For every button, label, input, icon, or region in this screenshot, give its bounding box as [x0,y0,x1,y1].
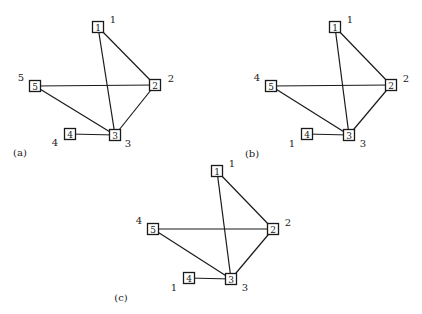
node-box-label: 4 [304,130,310,140]
edge-4-3 [189,278,231,279]
node-box-label: 2 [388,81,394,91]
node-outer-label: 1 [289,138,295,149]
edge-5-3 [35,86,115,135]
node-outer-label: 3 [125,138,131,149]
graph-diagram: 1122334455(a)1122334154(b)1122334154(c) [0,0,422,314]
node-outer-label: 4 [254,72,260,83]
panel-caption: (c) [114,292,128,303]
edge-4-3 [70,134,115,135]
node-outer-label: 4 [136,215,142,226]
edge-5-2 [35,85,155,86]
edge-2-3 [349,85,391,135]
node-box-label: 5 [32,82,38,92]
panel-caption: (a) [13,147,27,158]
node-outer-label: 2 [403,73,409,84]
node-box-label: 3 [346,131,352,141]
node-outer-label: 3 [360,138,366,149]
node-box-label: 5 [150,225,156,235]
node-box-label: 1 [95,23,101,33]
node-box-label: 1 [332,23,338,33]
edge-1-2 [217,171,273,229]
node-box-label: 1 [214,167,220,177]
graph-panel-a: 1122334455(a) [13,14,174,158]
node-outer-label: 1 [347,14,353,25]
edge-1-3 [98,27,115,135]
node-box-label: 2 [270,225,276,235]
edge-4-3 [307,134,349,135]
panel-caption: (b) [245,148,259,159]
edge-1-2 [335,27,391,85]
node-outer-label: 2 [168,73,174,84]
node-outer-label: 3 [242,282,248,293]
node-box-label: 3 [228,275,234,285]
node-box-label: 4 [67,130,73,140]
edge-1-3 [217,171,231,279]
edge-2-3 [115,85,155,135]
node-outer-label: 2 [285,217,291,228]
edge-5-3 [153,229,231,279]
edge-5-3 [271,86,349,135]
node-box-label: 2 [152,81,158,91]
edge-1-2 [98,27,155,85]
node-outer-label: 4 [52,137,58,148]
node-box-label: 5 [268,82,274,92]
edge-5-2 [271,85,391,86]
edge-1-3 [335,27,349,135]
node-outer-label: 1 [229,158,235,169]
edge-2-3 [231,229,273,279]
node-outer-label: 1 [171,282,177,293]
graph-panel-c: 1122334154(c) [114,158,291,303]
node-outer-label: 1 [110,14,116,25]
node-box-label: 4 [186,274,192,284]
graph-panel-b: 1122334154(b) [245,14,409,159]
node-outer-label: 5 [18,72,24,83]
node-box-label: 3 [112,131,118,141]
